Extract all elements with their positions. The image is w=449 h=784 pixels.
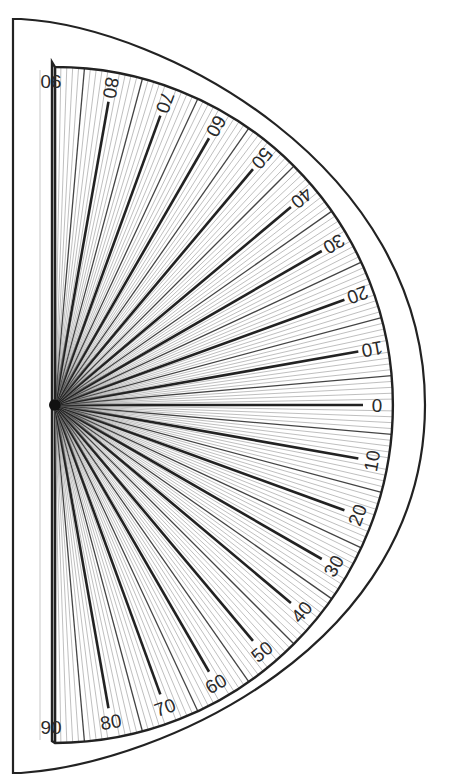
minor-tick-line bbox=[58, 118, 234, 400]
lower-degree-label: 80 bbox=[99, 710, 123, 734]
major-tick-line bbox=[60, 207, 291, 401]
minor-tick-line bbox=[60, 409, 318, 618]
minor-tick-line bbox=[58, 104, 209, 400]
minor-tick-line bbox=[60, 252, 356, 403]
degree-tick-lines bbox=[55, 67, 393, 743]
minor-tick-line bbox=[57, 94, 187, 400]
upper-degree-label: 90 bbox=[40, 71, 61, 92]
minor-tick-line bbox=[60, 202, 325, 402]
lower-degree-label: 30 bbox=[320, 552, 349, 581]
minor-tick-line bbox=[61, 407, 378, 504]
minor-tick-line bbox=[61, 407, 369, 531]
center-dot bbox=[49, 399, 61, 411]
minor-tick-line bbox=[57, 411, 154, 728]
protractor-diagram: 9080706050403020100102030405060708090 bbox=[0, 0, 449, 784]
minor-tick-line bbox=[57, 82, 154, 399]
minor-tick-line bbox=[57, 411, 187, 717]
minor-tick-line bbox=[60, 409, 325, 609]
minor-tick-line bbox=[60, 408, 356, 559]
upper-degree-label: 0 bbox=[372, 395, 383, 416]
minor-tick-line bbox=[61, 278, 369, 402]
minor-tick-line bbox=[59, 135, 259, 400]
lower-degree-label: 10 bbox=[360, 449, 384, 473]
minor-tick-line bbox=[60, 226, 342, 402]
protractor-svg: 9080706050403020100102030405060708090 bbox=[0, 0, 449, 784]
minor-tick-line bbox=[57, 92, 181, 400]
major-tick-line bbox=[59, 169, 253, 400]
upper-degree-label: 30 bbox=[319, 230, 348, 259]
major-tick-line bbox=[59, 410, 253, 641]
upper-degree-label: 80 bbox=[99, 76, 123, 100]
minor-tick-line bbox=[59, 410, 259, 675]
upper-degree-label: 10 bbox=[360, 337, 384, 361]
minor-tick-line bbox=[61, 306, 378, 403]
minor-tick-line bbox=[61, 273, 367, 403]
center-point bbox=[49, 399, 61, 411]
lower-degree-label: 90 bbox=[40, 717, 61, 738]
minor-tick-line bbox=[60, 408, 342, 584]
minor-tick-line bbox=[59, 142, 268, 400]
lower-degree-label: 60 bbox=[202, 670, 231, 699]
upper-degree-label: 60 bbox=[202, 112, 231, 141]
minor-tick-line bbox=[58, 410, 209, 706]
minor-tick-line bbox=[57, 411, 181, 719]
minor-tick-line bbox=[61, 407, 367, 537]
minor-tick-line bbox=[58, 410, 234, 692]
major-tick-line bbox=[60, 409, 291, 603]
